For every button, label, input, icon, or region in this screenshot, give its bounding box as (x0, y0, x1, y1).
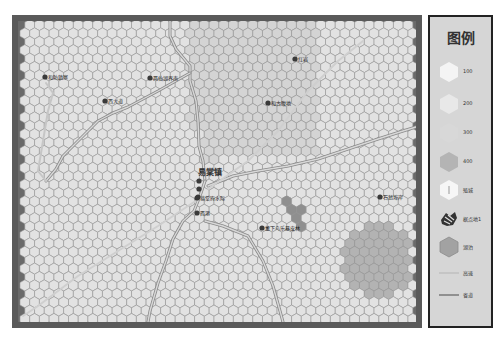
stronghold-marker-icon[interactable] (147, 75, 152, 80)
legend-label: 400 (463, 158, 473, 164)
place-label[interactable]: 和古腹地 (271, 100, 291, 106)
stronghold-marker-icon[interactable] (194, 210, 199, 215)
legend-item-100: 100 (430, 61, 491, 83)
hex-200-icon (438, 93, 460, 115)
stronghold-marker-icon[interactable] (265, 100, 270, 105)
place-label[interactable]: 两仙湖界南 (153, 75, 178, 81)
hex-100-icon (438, 61, 460, 83)
legend-label: 殖城 (463, 186, 473, 193)
place-label[interactable]: 西大道 (108, 98, 123, 104)
stronghold-marker-icon[interactable] (42, 74, 47, 79)
legend-item-400: 400 (430, 151, 491, 173)
legend-label: 300 (463, 129, 473, 135)
legend-label: 200 (463, 100, 473, 106)
provincial-line-icon (438, 284, 460, 306)
town-label[interactable]: 易棠镇 (198, 170, 222, 176)
legend-title: 图例 (430, 27, 491, 47)
hex-300-icon (438, 122, 460, 144)
legend-item-lake: 湖泊 (430, 236, 491, 258)
hex-map[interactable]: 和防鎮寨两仙湖界南西大道红岩和古腹地易棠府水际西港董下鸟乐暴皮林石翁埠岸 易棠镇 (18, 21, 416, 322)
legend-item-200: 200 (430, 93, 491, 115)
place-label[interactable]: 红岩 (298, 56, 308, 62)
legend-item-provincial: 省道 (430, 284, 491, 306)
legend-label: 省道 (463, 291, 473, 298)
map-frame: 和防鎮寨两仙湖界南西大道红岩和古腹地易棠府水际西港董下鸟乐暴皮林石翁埠岸 易棠镇 (12, 15, 422, 328)
place-label[interactable]: 和防鎮寨 (48, 74, 68, 80)
legend-label: 湖泊 (463, 243, 473, 250)
legend-item-stronghold: 据点地1 (430, 208, 491, 230)
place-label[interactable]: 石翁埠岸 (383, 194, 403, 200)
lake-hex-icon (438, 236, 460, 258)
legend-item-highway: 高速 (430, 262, 491, 284)
stronghold-marker-icon[interactable] (196, 186, 201, 191)
stronghold-marker-icon[interactable] (377, 194, 382, 199)
town-hex-icon (438, 179, 460, 201)
hex-400-icon (438, 151, 460, 173)
place-label[interactable]: 西港 (200, 210, 210, 216)
place-label[interactable]: 易棠府水际 (200, 195, 225, 201)
legend-label: 100 (463, 68, 473, 74)
place-label[interactable]: 董下鸟乐暴皮林 (265, 225, 300, 231)
stronghold-marker-icon[interactable] (292, 56, 297, 61)
legend-panel: 图例 100 200 300 400 殖城 据点地1 湖泊 高速 省道 (428, 15, 493, 328)
stronghold-marker-icon[interactable] (102, 98, 107, 103)
legend-label: 据点地1 (463, 215, 481, 222)
legend-item-300: 300 (430, 122, 491, 144)
stronghold-icon (438, 208, 460, 230)
stronghold-marker-icon[interactable] (259, 225, 264, 230)
highway-line-icon (438, 262, 460, 284)
legend-label: 高速 (463, 269, 473, 276)
legend-item-town: 殖城 (430, 179, 491, 201)
stronghold-marker-icon[interactable] (196, 178, 201, 183)
